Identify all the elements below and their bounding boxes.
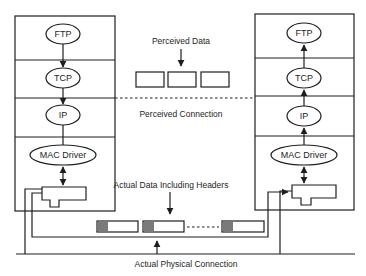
actual-data-group: Actual Data Including Headers	[97, 180, 264, 232]
right-tcp-node: TCP	[287, 68, 321, 88]
right-ftp-node: FTP	[287, 23, 321, 43]
right-ip-node: IP	[287, 106, 321, 126]
left-ftp-label: FTP	[55, 29, 72, 39]
left-host-stack: FTP TCP IP MAC Driver	[15, 16, 115, 211]
perceived-data-block	[136, 72, 164, 87]
right-ip-label: IP	[300, 111, 309, 121]
right-tcp-label: TCP	[295, 73, 313, 83]
packet-frame	[222, 221, 264, 232]
right-network-card-icon	[292, 185, 336, 205]
packet-header	[98, 222, 108, 231]
left-ftp-node: FTP	[46, 24, 80, 44]
left-tcp-label: TCP	[54, 73, 72, 83]
packet-header	[144, 222, 154, 231]
right-ftp-label: FTP	[296, 28, 313, 38]
actual-data-caption: Actual Data Including Headers	[114, 180, 229, 190]
packet-frame	[97, 221, 138, 232]
perceived-data-caption: Perceived Data	[152, 36, 210, 46]
actual-physical-caption: Actual Physical Connection	[134, 259, 237, 269]
perceived-connection-caption: Perceived Connection	[139, 109, 222, 119]
left-ip-node: IP	[46, 105, 80, 125]
right-nic-wire-drop	[280, 191, 292, 254]
packet-header	[223, 222, 233, 231]
left-network-card-icon	[42, 187, 86, 207]
network-stack-diagram: FTP TCP IP MAC Driver F	[0, 0, 366, 276]
left-mac-driver-node: MAC Driver	[30, 145, 96, 165]
right-mac-driver-label: MAC Driver	[281, 150, 328, 160]
left-nic-wire-drop	[25, 189, 42, 254]
right-mac-driver-node: MAC Driver	[271, 145, 337, 165]
left-tcp-node: TCP	[46, 68, 80, 88]
perceived-data-group: Perceived Data	[136, 36, 229, 87]
perceived-data-block	[201, 72, 229, 87]
perceived-connection-group: Perceived Connection	[115, 98, 255, 119]
left-ip-label: IP	[59, 110, 68, 120]
right-host-stack: FTP TCP IP MAC Driver	[255, 14, 354, 210]
perceived-data-block	[168, 72, 196, 87]
packet-frame	[143, 221, 184, 232]
left-mac-driver-label: MAC Driver	[40, 150, 87, 160]
